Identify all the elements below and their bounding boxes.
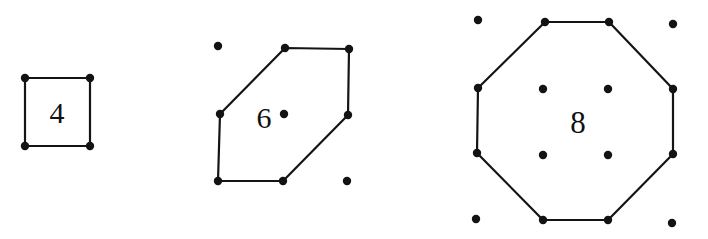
interior-dot xyxy=(280,110,288,118)
count-label: 6 xyxy=(257,101,272,134)
figure-canvas: 468 xyxy=(0,0,708,239)
square-group: 4 xyxy=(21,74,94,150)
vertex-dot xyxy=(216,110,224,118)
interior-dot xyxy=(539,151,547,159)
vertex-dot xyxy=(281,44,289,52)
vertex-dot xyxy=(541,18,549,26)
vertex-dot xyxy=(474,84,482,92)
vertex-dot xyxy=(86,142,94,150)
vertex-dot xyxy=(344,111,352,119)
octagon-group: 8 xyxy=(472,16,677,227)
exterior-dot xyxy=(472,215,480,223)
vertex-dot xyxy=(605,18,613,26)
vertex-dot xyxy=(279,177,287,185)
interior-dot xyxy=(604,151,612,159)
exterior-dot xyxy=(474,16,482,24)
vertex-dot xyxy=(214,177,222,185)
count-label: 8 xyxy=(570,105,586,140)
vertex-dot xyxy=(604,216,612,224)
exterior-dot xyxy=(668,219,676,227)
vertex-dot xyxy=(21,142,29,150)
exterior-dot xyxy=(214,42,222,50)
vertex-dot xyxy=(669,85,677,93)
vertex-dot xyxy=(669,150,677,158)
exterior-dot xyxy=(343,177,351,185)
hexagon-group: 6 xyxy=(214,42,353,185)
polygon-figure-svg: 468 xyxy=(0,0,708,239)
vertex-dot xyxy=(473,149,481,157)
vertex-dot xyxy=(21,74,29,82)
interior-dot xyxy=(604,85,612,93)
vertex-dot xyxy=(345,45,353,53)
exterior-dot xyxy=(669,20,677,28)
vertex-dot xyxy=(539,216,547,224)
vertex-dot xyxy=(86,74,94,82)
count-label: 4 xyxy=(50,96,65,129)
interior-dot xyxy=(539,85,547,93)
